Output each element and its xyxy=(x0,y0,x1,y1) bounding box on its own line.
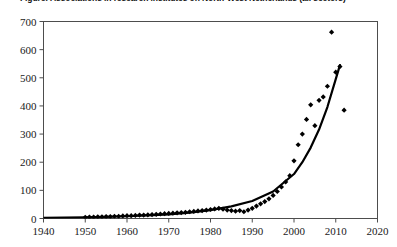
y-axis-tick-label: 300 xyxy=(20,128,37,140)
data-point xyxy=(316,98,321,103)
y-axis-tick-label: 200 xyxy=(20,156,37,168)
data-point xyxy=(300,131,305,136)
x-axis-tick-label: 1970 xyxy=(158,225,181,237)
data-point xyxy=(254,204,259,209)
y-axis-tick-label: 400 xyxy=(20,100,37,112)
scatter-plot: 1940195019601970198019902000201020200100… xyxy=(0,0,397,247)
y-axis-tick-label: 100 xyxy=(20,184,37,196)
x-axis-tick-label: 1980 xyxy=(200,225,223,237)
data-point xyxy=(266,196,271,201)
data-point xyxy=(321,94,326,99)
data-point xyxy=(233,209,238,214)
data-point xyxy=(308,102,313,107)
x-axis-tick-label: 2020 xyxy=(367,225,390,237)
x-axis-tick-label: 1950 xyxy=(74,225,97,237)
data-point xyxy=(229,208,234,213)
y-axis-tick-label: 600 xyxy=(20,44,37,56)
data-point xyxy=(325,84,330,89)
data-point xyxy=(304,117,309,122)
x-axis-tick-label: 1990 xyxy=(241,225,264,237)
data-point xyxy=(312,123,317,128)
x-axis-tick-label: 1940 xyxy=(33,225,56,237)
plot-frame xyxy=(44,22,378,219)
y-axis-tick-label: 700 xyxy=(20,16,37,28)
data-point xyxy=(296,142,301,147)
data-point xyxy=(258,201,263,206)
figure-container: Figure: Associations in research institu… xyxy=(0,0,397,247)
data-point xyxy=(342,108,347,113)
x-axis-tick-label: 2010 xyxy=(325,225,348,237)
data-point xyxy=(237,208,242,213)
trend-line xyxy=(44,65,340,218)
scatter-series xyxy=(83,30,347,220)
data-layer xyxy=(44,30,347,220)
data-point xyxy=(262,199,267,204)
data-point xyxy=(329,30,334,35)
data-point xyxy=(291,158,296,163)
x-axis-tick-label: 1960 xyxy=(116,225,139,237)
data-point xyxy=(271,193,276,198)
y-axis-tick-label: 500 xyxy=(20,72,37,84)
x-axis-tick-label: 2000 xyxy=(283,225,306,237)
y-axis-tick-label: 0 xyxy=(31,213,37,225)
